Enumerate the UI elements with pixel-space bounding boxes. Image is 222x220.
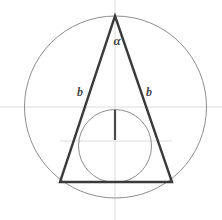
left-side-label: b	[77, 85, 83, 99]
geometry-figure: α b b	[0, 0, 222, 220]
right-side-label: b	[146, 85, 152, 99]
figure-canvas: α b b	[0, 0, 222, 220]
apex-angle-label: α	[113, 33, 121, 48]
